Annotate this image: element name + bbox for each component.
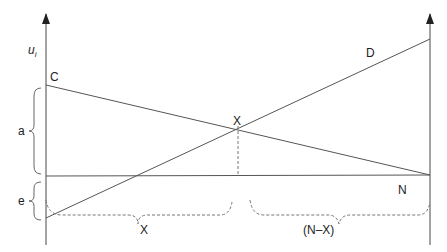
diagram-canvas: ui C D X N a e X (N–X) bbox=[0, 0, 447, 252]
horizontal-baseline bbox=[46, 175, 430, 176]
right-axis-arrow-icon bbox=[426, 13, 434, 24]
brace-e bbox=[29, 182, 41, 220]
brace-label-e: e bbox=[18, 194, 25, 208]
point-label-d: D bbox=[366, 46, 375, 60]
brace-n-minus-x-span bbox=[250, 200, 430, 224]
y-axis-label: ui bbox=[28, 43, 37, 59]
point-label-c: C bbox=[50, 70, 59, 84]
left-axis-arrow-icon bbox=[42, 13, 50, 24]
point-label-n: N bbox=[398, 183, 407, 197]
brace-label-n-minus-x: (N–X) bbox=[303, 223, 334, 237]
brace-a bbox=[29, 88, 41, 174]
brace-label-a: a bbox=[18, 124, 25, 138]
brace-label-x: X bbox=[140, 223, 148, 237]
brace-x-span bbox=[46, 200, 232, 224]
point-label-x-intersection: X bbox=[233, 114, 241, 128]
